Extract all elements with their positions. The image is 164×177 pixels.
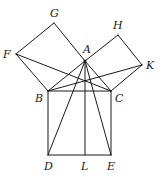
point-labels: ABCDLEFGHK	[2, 7, 155, 173]
label-b: B	[34, 92, 43, 105]
diagram-segments	[16, 23, 142, 155]
label-a: A	[82, 43, 91, 56]
label-c: C	[115, 92, 124, 105]
segment-hk	[118, 35, 142, 65]
label-h: H	[112, 19, 123, 32]
segment-bf	[16, 54, 48, 91]
label-g: G	[50, 7, 59, 20]
segment-ga	[54, 23, 85, 61]
label-f: F	[2, 48, 11, 61]
label-k: K	[145, 59, 155, 72]
vertex-markers	[83, 59, 86, 62]
label-e: E	[106, 160, 115, 173]
segment-ad	[48, 61, 85, 155]
vertex-a-dot	[83, 59, 86, 62]
segment-fc	[16, 54, 111, 91]
segment-fg	[16, 23, 54, 54]
segment-bk	[48, 65, 142, 91]
label-d: D	[43, 160, 53, 173]
label-l: L	[80, 160, 88, 173]
pythagorean-proof-diagram: ABCDLEFGHK	[0, 0, 164, 177]
